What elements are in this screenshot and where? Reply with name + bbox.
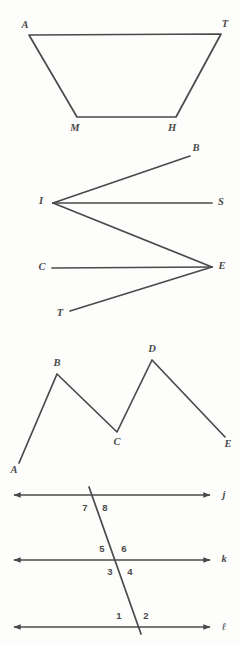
point-label-T: T	[57, 307, 64, 318]
trapezoid-shape	[29, 34, 221, 117]
point-label-I: I	[38, 195, 44, 206]
vertex-label-A: A	[20, 19, 28, 30]
vertex-label-B: B	[52, 357, 60, 368]
vertex-label-D: D	[147, 343, 156, 354]
line-label-ell: ℓ	[222, 621, 227, 632]
segment-CE	[52, 267, 212, 268]
angle-label-2: 2	[143, 610, 148, 621]
figure-3-polyline-ABCDE: A B C D E	[9, 343, 231, 475]
segment-IB	[53, 156, 190, 203]
angle-label-1: 1	[116, 610, 122, 621]
line-label-k: k	[221, 553, 227, 564]
line-label-j: j	[221, 489, 226, 500]
angle-label-3: 3	[107, 566, 112, 577]
vertex-label-T: T	[222, 18, 229, 29]
vertex-label-E: E	[223, 438, 231, 449]
figure-4-parallel-lines-transversal: j k ℓ 1 2 3 4 5 6 7 8	[14, 487, 227, 634]
point-label-E: E	[217, 260, 225, 271]
polyline-shape	[19, 360, 225, 463]
point-label-C: C	[38, 261, 46, 272]
segment-ET	[70, 267, 212, 311]
vertex-label-C: C	[113, 436, 121, 447]
figure-1-trapezoid-ATHM: A T H M	[20, 18, 228, 133]
point-label-B: B	[191, 142, 199, 153]
angle-label-5: 5	[99, 543, 105, 554]
angle-label-6: 6	[121, 543, 126, 554]
point-label-S: S	[218, 196, 224, 207]
vertex-label-M: M	[69, 122, 80, 133]
figure-2-zigzag-BISCET: B I S C E T	[38, 142, 226, 318]
angle-label-4: 4	[127, 566, 133, 577]
worksheet-page: A T H M B I S C E T A B C D E	[0, 0, 241, 645]
angle-label-8: 8	[102, 502, 107, 513]
vertex-label-H: H	[167, 122, 177, 133]
segment-IE	[53, 203, 212, 267]
vertex-label-A: A	[9, 464, 17, 475]
angle-label-7: 7	[82, 502, 87, 513]
geometry-figures-canvas: A T H M B I S C E T A B C D E	[0, 0, 241, 645]
